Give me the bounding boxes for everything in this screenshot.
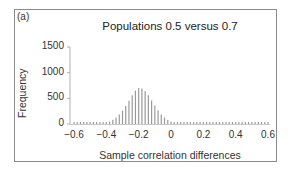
histogram-bar bbox=[248, 122, 249, 124]
histogram-bar bbox=[170, 122, 171, 124]
histogram-bar bbox=[109, 122, 110, 124]
histogram-bar bbox=[200, 122, 201, 124]
histogram-bar bbox=[190, 122, 191, 124]
histogram-bar bbox=[258, 122, 259, 124]
histogram-bar bbox=[187, 122, 188, 124]
histogram-bar bbox=[251, 122, 252, 124]
histogram-bar bbox=[151, 100, 152, 124]
histogram-bar bbox=[216, 122, 217, 124]
histogram-bar bbox=[148, 95, 149, 124]
histogram-bar bbox=[145, 91, 146, 124]
histogram-bar bbox=[132, 95, 133, 124]
histogram-bar bbox=[264, 122, 265, 124]
histogram-bar bbox=[254, 122, 255, 124]
histogram-bar bbox=[232, 122, 233, 124]
histogram-bar bbox=[128, 101, 129, 124]
histogram-bar bbox=[242, 122, 243, 124]
histogram-bar bbox=[193, 122, 194, 124]
histogram-plot bbox=[0, 0, 291, 173]
histogram-bar bbox=[164, 118, 165, 124]
histogram-bar bbox=[196, 122, 197, 124]
histogram-bar bbox=[154, 106, 155, 124]
histogram-bar bbox=[235, 122, 236, 124]
histogram-bar bbox=[229, 122, 230, 124]
histogram-bar bbox=[161, 115, 162, 125]
histogram-bar bbox=[222, 122, 223, 124]
histogram-bar bbox=[83, 122, 84, 124]
histogram-bar bbox=[245, 122, 246, 124]
histogram-bar bbox=[225, 122, 226, 124]
axes bbox=[67, 47, 270, 125]
histogram-bar bbox=[157, 110, 158, 124]
histogram-bar bbox=[112, 120, 113, 124]
histogram-bar bbox=[167, 120, 168, 124]
histogram-bar bbox=[261, 122, 262, 124]
histogram-bar bbox=[80, 122, 81, 124]
histogram-bar bbox=[90, 122, 91, 124]
histogram-bar bbox=[212, 122, 213, 124]
histogram-bar bbox=[135, 91, 136, 124]
histogram-bar bbox=[206, 122, 207, 124]
histogram-bar bbox=[177, 122, 178, 124]
histogram-bar bbox=[77, 122, 78, 124]
histogram-bar bbox=[267, 122, 268, 124]
histogram-bar bbox=[103, 122, 104, 124]
histogram-bar bbox=[180, 122, 181, 124]
histogram-bar bbox=[93, 122, 94, 124]
histogram-bar bbox=[115, 118, 116, 124]
histogram-bar bbox=[99, 122, 100, 124]
histogram-bar bbox=[73, 122, 74, 124]
histogram-bar bbox=[203, 122, 204, 124]
histogram-bar bbox=[219, 122, 220, 124]
histogram-bar bbox=[96, 122, 97, 124]
histogram-bar bbox=[138, 88, 139, 124]
histogram-bar bbox=[174, 122, 175, 124]
histogram-bar bbox=[209, 122, 210, 124]
histogram-bars bbox=[73, 88, 268, 124]
histogram-bar bbox=[238, 122, 239, 124]
histogram-bar bbox=[86, 122, 87, 124]
histogram-bar bbox=[106, 122, 107, 124]
histogram-bar bbox=[122, 111, 123, 124]
histogram-bar bbox=[119, 115, 120, 125]
histogram-bar bbox=[183, 122, 184, 124]
histogram-bar bbox=[125, 106, 126, 124]
histogram-bar bbox=[141, 89, 142, 124]
